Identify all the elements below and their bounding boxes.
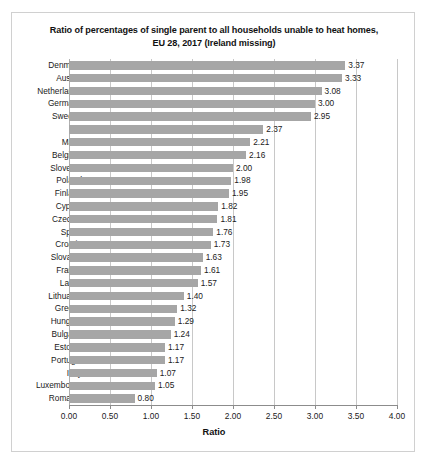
value-label: 2.16 [249, 149, 265, 162]
value-label: 1.07 [160, 367, 176, 380]
bar [69, 177, 231, 185]
value-label: 2.37 [266, 123, 282, 136]
bar-row: UK2.37 [12, 123, 414, 136]
bar-row: Sweden2.95 [12, 110, 414, 123]
bar-row: Slovakia1.63 [12, 251, 414, 264]
bar-row: Latvia1.57 [12, 277, 414, 290]
bar [69, 151, 246, 159]
chart-title: Ratio of percentages of single parent to… [12, 24, 416, 50]
bar-row: Italy1.07 [12, 367, 414, 380]
chart-frame: Ratio of percentages of single parent to… [11, 12, 415, 452]
x-tick-label: 3.50 [336, 411, 376, 421]
value-label: 1.40 [187, 290, 203, 303]
x-tick-label: 3.00 [295, 411, 335, 421]
x-tick-mark [397, 405, 398, 409]
value-label: 1.17 [168, 354, 184, 367]
chart-title-line-1: Ratio of percentages of single parent to… [12, 24, 416, 37]
value-label: 1.29 [178, 315, 194, 328]
bar [69, 382, 155, 390]
x-tick-label: 2.00 [213, 411, 253, 421]
x-tick-mark [315, 405, 316, 409]
bar [69, 228, 213, 236]
bar [69, 202, 218, 210]
x-tick-label: 4.00 [377, 411, 417, 421]
value-label: 1.82 [221, 200, 237, 213]
bar-row: Estonia1.17 [12, 341, 414, 354]
bar-row: Finland1.95 [12, 187, 414, 200]
x-tick-mark [69, 405, 70, 409]
value-label: 1.17 [168, 341, 184, 354]
bar [69, 343, 165, 351]
bar-row: Romania0.80 [12, 392, 414, 405]
x-tick-label: 0.00 [49, 411, 89, 421]
x-axis-title: Ratio [12, 427, 416, 437]
value-label: 1.63 [206, 251, 222, 264]
bar [69, 253, 203, 261]
bar-row: Spain1.76 [12, 226, 414, 239]
value-label: 2.21 [253, 136, 269, 149]
bar-row: Austria3.33 [12, 72, 414, 85]
x-tick-label: 0.50 [90, 411, 130, 421]
bar-row: Germany3.00 [12, 97, 414, 110]
bar [69, 266, 201, 274]
x-tick-mark [151, 405, 152, 409]
bar [69, 394, 135, 402]
bar-row: Greece1.32 [12, 302, 414, 315]
bar-row: Portugal1.17 [12, 354, 414, 367]
bar [69, 241, 211, 249]
bar-row: Malta2.21 [12, 136, 414, 149]
bar [69, 305, 177, 313]
x-tick-mark [192, 405, 193, 409]
x-tick-mark [110, 405, 111, 409]
bar-row: Lithuania1.40 [12, 290, 414, 303]
value-label: 1.32 [180, 302, 196, 315]
value-label: 3.00 [318, 97, 334, 110]
value-label: 2.00 [236, 162, 252, 175]
bar [69, 215, 217, 223]
value-label: 3.33 [345, 72, 361, 85]
bar-row: Belgium2.16 [12, 149, 414, 162]
bar [69, 100, 315, 108]
bar-row: Bulgaria1.24 [12, 328, 414, 341]
bar-row: Croatia1.73 [12, 238, 414, 251]
x-tick-label: 2.50 [254, 411, 294, 421]
bar [69, 292, 184, 300]
value-label: 1.81 [220, 213, 236, 226]
x-tick-mark [274, 405, 275, 409]
bar-row: Cyprus1.82 [12, 200, 414, 213]
x-tick-mark [356, 405, 357, 409]
value-label: 0.80 [138, 392, 154, 405]
value-label: 1.98 [234, 174, 250, 187]
bar-row: Denmark3.37 [12, 59, 414, 72]
bar-row: Slovenia2.00 [12, 162, 414, 175]
bar [69, 61, 345, 69]
bar [69, 112, 311, 120]
bar-row: France1.61 [12, 264, 414, 277]
bar [69, 87, 322, 95]
chart-title-line-2: EU 28, 2017 (Ireland missing) [12, 37, 416, 50]
bar [69, 330, 171, 338]
x-tick-label: 1.50 [172, 411, 212, 421]
value-label: 1.61 [204, 264, 220, 277]
bar-row: Poland1.98 [12, 174, 414, 187]
bar-row: Hungary1.29 [12, 315, 414, 328]
value-label: 3.08 [325, 85, 341, 98]
value-label: 3.37 [348, 59, 364, 72]
x-tick-mark [233, 405, 234, 409]
x-tick-label: 1.00 [131, 411, 171, 421]
bar-row: Luxembourg1.05 [12, 379, 414, 392]
value-label: 1.95 [232, 187, 248, 200]
bar [69, 189, 229, 197]
value-label: 2.95 [314, 110, 330, 123]
value-label: 1.05 [158, 379, 174, 392]
bar [69, 74, 342, 82]
bar-row: Czechia1.81 [12, 213, 414, 226]
bar-row: Netherlands3.08 [12, 85, 414, 98]
value-label: 1.24 [174, 328, 190, 341]
bar [69, 138, 250, 146]
bar [69, 164, 233, 172]
value-label: 1.57 [201, 277, 217, 290]
bar [69, 356, 165, 364]
bar [69, 317, 175, 325]
value-label: 1.76 [216, 226, 232, 239]
